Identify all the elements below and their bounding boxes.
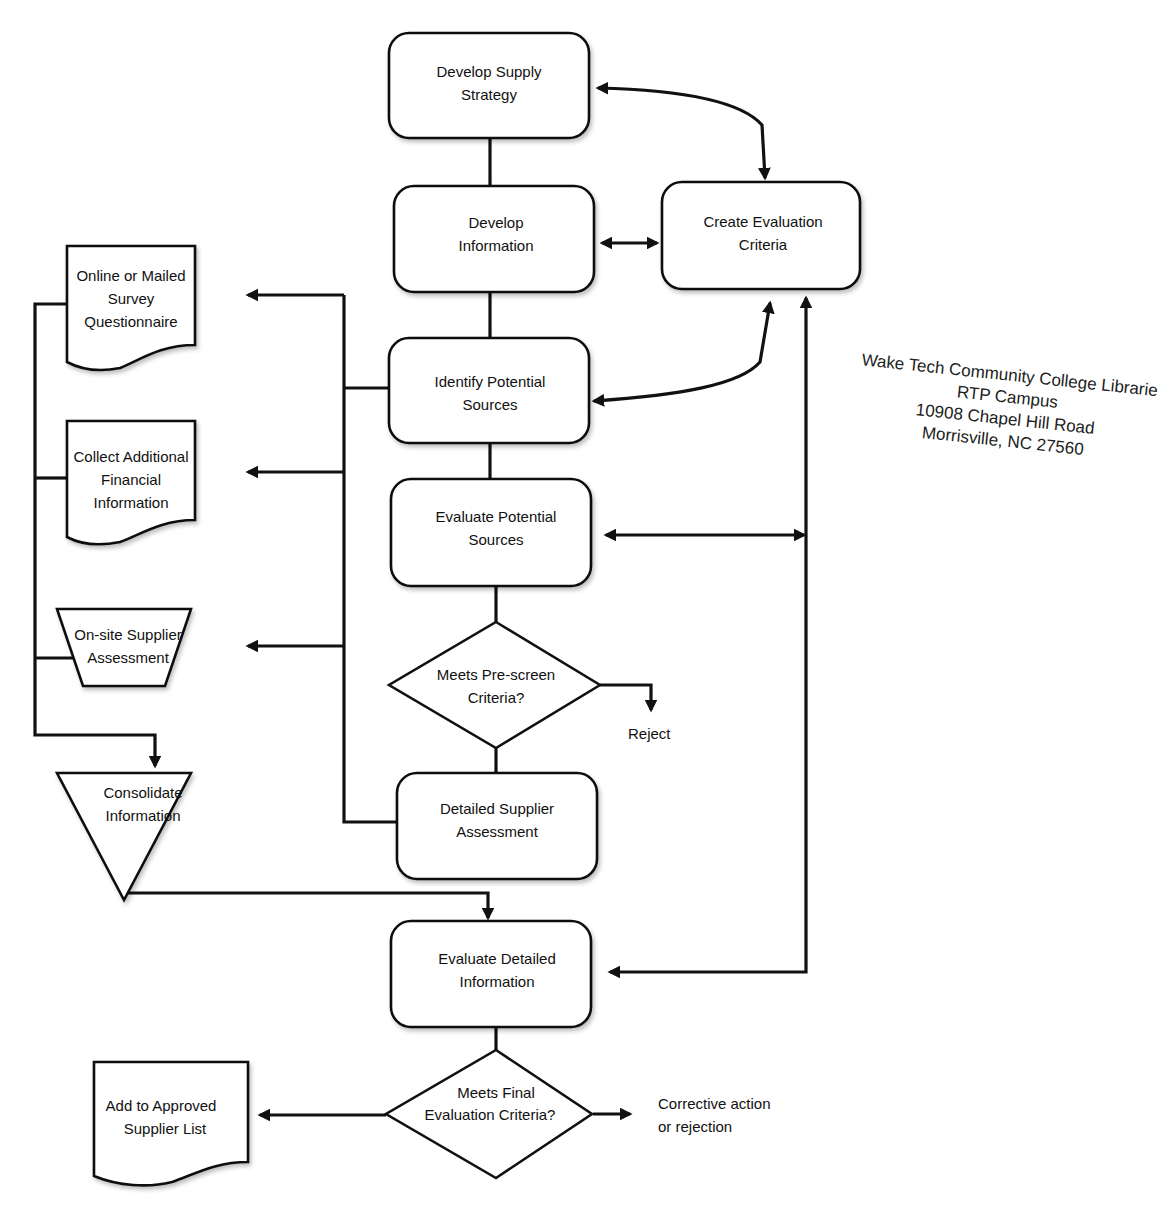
node-label: Evaluation Criteria? [425,1106,556,1123]
node-onsite-supplier-assessment: On-site Supplier Assessment [57,609,191,686]
node-label: Develop [468,214,523,231]
node-label: Sources [462,396,517,413]
node-label: Criteria [739,236,788,253]
node-label: Survey [108,290,155,307]
node-label: Questionnaire [84,313,177,330]
node-label: Create Evaluation [703,213,822,230]
node-label: Sources [468,531,523,548]
node-label: Collect Additional [73,448,188,465]
node-label: Meets Final [457,1084,535,1101]
node-evaluate-potential-sources: Evaluate Potential Sources [391,479,591,586]
node-label: Evaluate Potential [436,508,557,525]
supplier-selection-flowchart: Develop Supply Strategy Develop Informat… [0,0,1163,1207]
node-label: Online or Mailed [76,267,185,284]
node-label: Add to Approved [106,1097,217,1114]
node-label: On-site Supplier [74,626,182,643]
node-label: Assessment [87,649,170,666]
node-collect-financial-information: Collect Additional Financial Information [67,421,195,544]
node-label: Consolidate [103,784,182,801]
node-label: Information [459,973,534,990]
arrow-strategy-criteria [598,88,765,178]
arrow-criteria-evaluate-detailed [610,298,806,972]
node-online-mailed-survey: Online or Mailed Survey Questionnaire [67,246,195,370]
node-meets-prescreen-criteria: Meets Pre-screen Criteria? [389,622,600,748]
node-evaluate-detailed-information: Evaluate Detailed Information [391,921,591,1027]
node-label: Evaluate Detailed [438,950,556,967]
reject-label: Reject [628,725,671,742]
node-develop-information: Develop Information [394,186,594,292]
node-label: Develop Supply [436,63,542,80]
node-label: Information [93,494,168,511]
node-meets-final-evaluation-criteria: Meets Final Evaluation Criteria? [386,1050,592,1178]
corrective-action-label: or rejection [658,1118,732,1135]
corrective-action-label: Corrective action [658,1095,771,1112]
node-label: Strategy [461,86,517,103]
node-label: Criteria? [468,689,525,706]
node-develop-supply-strategy: Develop Supply Strategy [389,33,589,138]
node-label: Identify Potential [435,373,546,390]
node-label: Information [458,237,533,254]
node-detailed-supplier-assessment: Detailed Supplier Assessment [397,773,597,879]
library-stamp: Wake Tech Community College Librarie RTP… [854,350,1159,466]
arrow-to-reject [600,685,651,710]
node-consolidate-information: Consolidate Information [57,773,191,900]
node-label: Meets Pre-screen [437,666,555,683]
node-label: Supplier List [124,1120,207,1137]
node-identify-potential-sources: Identify Potential Sources [389,338,589,443]
arrow-identify-criteria [594,303,770,401]
node-label: Financial [101,471,161,488]
node-create-evaluation-criteria: Create Evaluation Criteria [662,182,860,289]
arrow-consolidate-evaluate-detailed [128,893,488,918]
node-label: Information [105,807,180,824]
node-add-to-approved-list: Add to Approved Supplier List [94,1062,248,1185]
node-label: Detailed Supplier [440,800,554,817]
node-label: Assessment [456,823,539,840]
